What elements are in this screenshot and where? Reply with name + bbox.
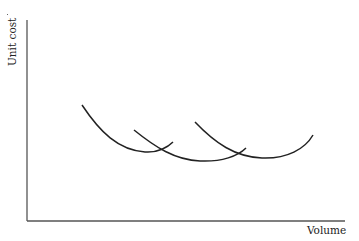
cost-curve-1: [82, 105, 173, 152]
y-axis-label: Unit cost: [6, 18, 18, 66]
cost-curve-2: [134, 130, 246, 161]
cost-curves-diagram: [0, 0, 359, 241]
x-axis-label: Volume: [307, 224, 346, 236]
cost-curve-3: [195, 122, 313, 158]
